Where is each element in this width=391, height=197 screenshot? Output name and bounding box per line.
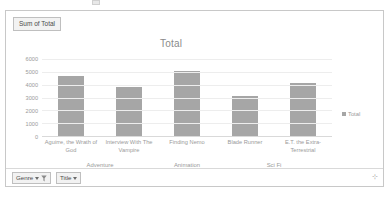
- y-axis-tick-label: 4000: [26, 82, 38, 88]
- pivot-field-button-sum-of-total[interactable]: Sum of Total: [13, 17, 61, 31]
- resize-grip-handle[interactable]: ⊹: [372, 173, 378, 181]
- category-label-2: Interview With The Vampire: [100, 139, 158, 154]
- category-label-3: Finding Nemo: [158, 139, 216, 154]
- chart-title: Total: [6, 38, 336, 49]
- y-axis-tick-label: 3000: [26, 95, 38, 101]
- category-label-4: Blade Runner: [216, 139, 274, 154]
- bar-4[interactable]: [232, 96, 258, 136]
- chevron-down-icon: [73, 177, 77, 180]
- filter-button-genre-label: Genre: [16, 174, 33, 182]
- y-axis-tick-label: 5000: [26, 69, 38, 75]
- gridline: [42, 110, 332, 111]
- filter-bar: Genre Title ⊹: [6, 168, 383, 186]
- resize-grip-icon: ⊹: [372, 173, 378, 181]
- pivotchart-screenshot: Sum of Total Total 600050004000300020001…: [0, 0, 391, 197]
- y-axis-tick-label: 1000: [26, 121, 38, 127]
- chart-legend: Total: [342, 111, 360, 117]
- category-labels: Aguirre, the Wrath of GodInterview With …: [42, 139, 332, 154]
- gridline: [42, 98, 332, 99]
- filter-button-title-label: Title: [60, 174, 71, 182]
- gridline: [42, 72, 332, 73]
- funnel-filter-icon: [41, 175, 47, 182]
- chevron-down-icon: [35, 177, 39, 180]
- y-axis: 6000500040003000200010000: [14, 59, 40, 137]
- category-label-1: Aguirre, the Wrath of God: [42, 139, 100, 154]
- legend-swatch-icon: [342, 112, 346, 116]
- y-axis-tick-label: 2000: [26, 108, 38, 114]
- category-label-5: E.T. the Extra-Terrestrial: [274, 139, 332, 154]
- legend-label-total: Total: [348, 111, 360, 117]
- bar-3[interactable]: [174, 71, 200, 136]
- plot-area: 6000500040003000200010000: [14, 59, 332, 137]
- plot-canvas: [42, 59, 332, 137]
- y-axis-tick-label: 6000: [26, 56, 38, 62]
- gridline: [42, 123, 332, 124]
- gridline: [42, 59, 332, 60]
- filter-button-title[interactable]: Title: [56, 172, 81, 184]
- scroll-nub: [92, 0, 100, 5]
- chart-frame: Sum of Total Total 600050004000300020001…: [5, 10, 384, 187]
- filter-button-genre[interactable]: Genre: [12, 172, 51, 184]
- y-axis-tick-label: 0: [35, 134, 38, 140]
- gridline: [42, 85, 332, 86]
